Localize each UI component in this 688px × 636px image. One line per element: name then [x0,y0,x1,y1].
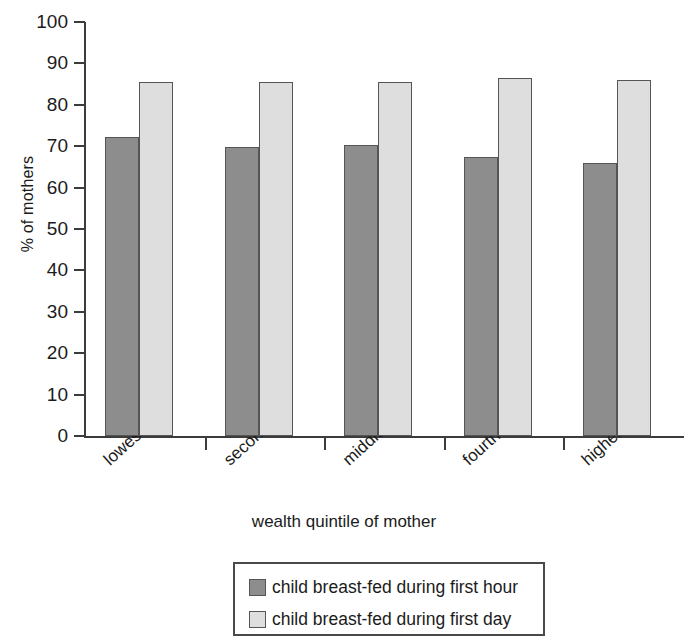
bar [225,147,259,436]
bar [464,157,498,436]
y-axis-tick-label: 20 [24,343,68,362]
y-axis-tick-label: 40 [24,260,68,279]
x-axis-tick [444,438,446,450]
bar [617,80,651,436]
y-axis-tick-label: 30 [24,302,68,321]
legend-swatch-icon-first-hour [249,579,266,596]
x-axis-title: wealth quintile of mother [0,512,688,532]
y-axis-tick [74,352,85,354]
y-axis-tick [74,394,85,396]
x-axis-tick [563,438,565,450]
y-axis-tick [74,187,85,189]
y-axis-tick-label: 90 [24,53,68,72]
legend-item-first-day: child breast-fed during first day [249,603,543,635]
y-axis-tick [74,21,85,23]
y-axis-tick [74,145,85,147]
y-axis-tick [74,311,85,313]
legend-swatch-icon-first-day [249,611,266,628]
bar [139,82,173,436]
bar [259,82,293,436]
y-axis-tick [74,435,85,437]
y-axis-tick [74,62,85,64]
y-axis-tick-label: 0 [24,426,68,445]
y-axis-tick-label: 100 [24,12,68,31]
bar [344,145,378,436]
bar [498,78,532,436]
y-axis-tick [74,104,85,106]
x-axis-tick [324,438,326,450]
y-axis-tick-label: 80 [24,95,68,114]
bar [105,137,139,436]
y-axis-tick-label: 70 [24,136,68,155]
y-axis-tick-label: 60 [24,178,68,197]
y-axis-tick-label: 10 [24,385,68,404]
legend: child breast-fed during first hour child… [233,562,545,636]
y-axis-tick-labels: 1009080706050403020100 [16,0,68,460]
legend-item-first-hour: child breast-fed during first hour [249,571,543,603]
legend-label-first-hour: child breast-fed during first hour [272,577,518,598]
y-axis-tick [74,269,85,271]
bar [378,82,412,436]
y-axis-tick [74,228,85,230]
y-axis-tick-label: 50 [24,219,68,238]
x-axis-tick [205,438,207,450]
bar [583,163,617,436]
legend-label-first-day: child breast-fed during first day [272,609,511,630]
